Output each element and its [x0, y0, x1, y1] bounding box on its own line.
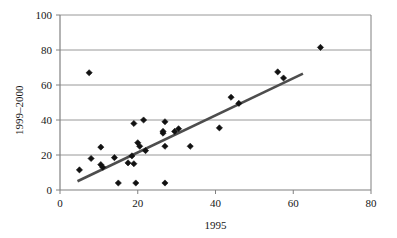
data-point [275, 69, 281, 75]
y-tick-label: 0 [18, 185, 52, 196]
data-point [131, 120, 137, 126]
x-axis-title: 1995 [156, 220, 276, 231]
data-point [125, 160, 131, 166]
trend-line [77, 74, 302, 182]
data-point [115, 180, 121, 186]
data-point [76, 167, 82, 173]
x-tick-label: 20 [123, 198, 153, 209]
y-axis-title: 1999–2000 [14, 85, 25, 135]
data-point [216, 125, 222, 131]
x-tick-label: 80 [356, 198, 386, 209]
data-point [98, 144, 104, 150]
data-point [228, 94, 234, 100]
data-point [187, 143, 193, 149]
data-point [280, 75, 286, 81]
x-tick-label: 0 [45, 198, 75, 209]
data-point [133, 180, 139, 186]
axis-frame [60, 15, 371, 190]
data-point [162, 143, 168, 149]
x-tick-label: 60 [278, 198, 308, 209]
scatter-chart: 020406080100 020406080 1995 1999–2000 [0, 0, 397, 238]
data-point [317, 44, 323, 50]
x-tick-marks [60, 190, 371, 194]
data-point [88, 155, 94, 161]
gridlines [60, 15, 371, 155]
data-point [86, 70, 92, 76]
data-point [162, 180, 168, 186]
data-point [111, 155, 117, 161]
x-tick-label: 40 [201, 198, 231, 209]
y-tick-label: 20 [18, 150, 52, 161]
data-point [131, 161, 137, 167]
data-point [140, 117, 146, 123]
y-tick-label: 100 [18, 10, 52, 21]
y-tick-label: 80 [18, 45, 52, 56]
